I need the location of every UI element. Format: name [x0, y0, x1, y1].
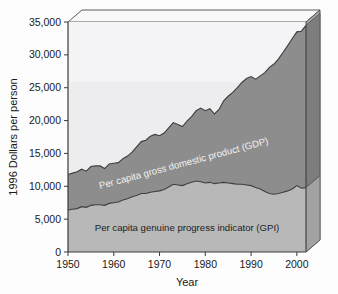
y-axis-title: 1996 Dollars per person — [7, 78, 19, 195]
chart-figure: 05,00010,00015,00020,00025,00030,00035,0… — [0, 0, 338, 294]
y-tick-label: 15,000 — [29, 147, 61, 159]
gpi-band-label: Per capita genuine progress indicator (G… — [95, 222, 280, 233]
x-axis-ticks: 195019601970198019902000 — [56, 252, 308, 270]
gpi-depth-ribbon — [306, 176, 320, 252]
y-axis-ticks: 05,00010,00015,00020,00025,00030,00035,0… — [29, 16, 68, 258]
x-tick-label: 1950 — [56, 258, 80, 270]
x-tick-label: 1980 — [194, 258, 218, 270]
y-tick-label: 25,000 — [29, 81, 61, 93]
y-tick-label: 30,000 — [29, 48, 61, 60]
x-tick-label: 1960 — [102, 258, 126, 270]
x-tick-label: 2000 — [285, 258, 309, 270]
gdp-depth-ribbon — [306, 13, 320, 187]
x-tick-label: 1990 — [239, 258, 263, 270]
y-tick-label: 10,000 — [29, 180, 61, 192]
x-tick-label: 1970 — [148, 258, 172, 270]
frame-top-face — [68, 10, 320, 22]
area-chart-svg: 05,00010,00015,00020,00025,00030,00035,0… — [0, 0, 338, 294]
y-tick-label: 5,000 — [35, 213, 61, 225]
x-axis-title: Year — [176, 276, 199, 288]
y-tick-label: 35,000 — [29, 16, 61, 28]
y-tick-label: 0 — [55, 246, 61, 258]
y-tick-label: 20,000 — [29, 114, 61, 126]
